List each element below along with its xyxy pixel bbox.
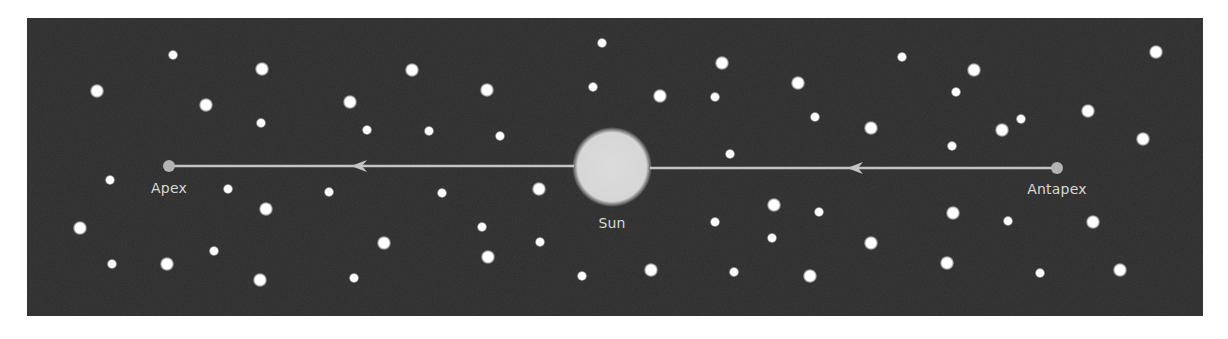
star-dot [424,126,434,136]
star-dot [810,112,820,122]
star-dot [791,76,805,90]
star-dot [767,233,777,243]
star-dot [710,217,720,227]
star-dot [1136,132,1150,146]
star-dot [253,273,267,287]
star-dot [967,63,981,77]
star-dot [1016,114,1026,124]
star-dot [256,118,266,128]
star-dot [597,38,607,48]
star-dot [209,246,219,256]
star-dot [477,222,487,232]
star-dot [864,236,878,250]
star-dot [73,221,87,235]
star-dot [107,259,117,269]
star-dot [715,56,729,70]
star-dot [1149,45,1163,59]
antapex-point-marker [1051,162,1063,174]
star-dot [644,263,658,277]
antapex-label: Antapex [1027,181,1086,197]
star-dot [767,198,781,212]
star-dot [947,141,957,151]
star-dot [437,188,447,198]
star-dot [362,125,372,135]
star-dot [255,62,269,76]
star-dot [814,207,824,217]
star-dot [940,256,954,270]
sun-label: Sun [598,215,625,231]
star-dot [577,271,587,281]
star-dot [223,184,233,194]
star-dot [535,237,545,247]
night-sky-panel [27,18,1203,316]
star-dot [951,87,961,97]
star-dot [588,82,598,92]
star-dot [897,52,907,62]
star-dot [803,269,817,283]
star-dot [199,98,213,112]
star-dot [160,257,174,271]
star-dot [349,273,359,283]
star-dot [1081,104,1095,118]
star-dot [105,175,115,185]
star-dot [710,92,720,102]
star-dot [1086,215,1100,229]
star-dot [729,267,739,277]
star-dot [495,131,505,141]
star-dot [480,83,494,97]
star-dot [653,89,667,103]
star-dot [532,182,546,196]
star-dot [1035,268,1045,278]
apex-label: Apex [151,180,187,196]
star-dot [405,63,419,77]
star-dot [324,187,334,197]
star-dot [946,206,960,220]
star-dot [864,121,878,135]
sun-disc [572,127,652,207]
star-dot [168,50,178,60]
star-dot [995,123,1009,137]
sky-diagram [27,18,1203,316]
star-dot [377,236,391,250]
star-dot [259,202,273,216]
star-dot [725,149,735,159]
star-dot [1113,263,1127,277]
apex-point-marker [163,160,175,172]
star-dot [90,84,104,98]
star-dot [1003,216,1013,226]
star-dot [481,250,495,264]
figure-canvas: Apex Sun Antapex [0,0,1228,339]
star-dot [343,95,357,109]
